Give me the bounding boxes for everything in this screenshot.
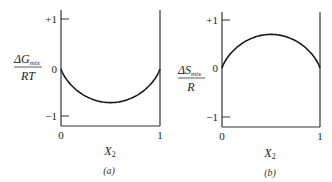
panel-a-xlabel: X2 xyxy=(103,144,115,159)
panel-a-xtick-one: 1 xyxy=(157,129,163,141)
panel-a-caption: (a) xyxy=(103,165,115,177)
panel-b-ylabel: ΔSmix R xyxy=(177,63,205,94)
panel-b-xtick-one: 1 xyxy=(317,130,323,142)
panel-a-ylabel: ΔGmix RT xyxy=(13,52,42,83)
panel-b-caption: (b) xyxy=(264,167,276,179)
panel-a-ylabel-denominator: RT xyxy=(20,69,36,83)
panel-b-ylabel-numerator: ΔSmix xyxy=(177,63,202,78)
panel-a-ylabel-numerator: ΔGmix xyxy=(13,52,41,67)
panel-b-xlabel: X2 xyxy=(263,146,275,161)
panel-b: +1 0 −1 0 1 ΔSmix R X2 (b) xyxy=(177,12,323,179)
panel-a-ytick-zero: 0 xyxy=(52,63,58,75)
panel-a-xtick-zero: 0 xyxy=(58,129,64,141)
panel-a: +1 0 −1 0 1 ΔGmix RT X2 (a) xyxy=(13,10,163,177)
panel-a-ytick-minus1: −1 xyxy=(45,110,57,122)
panel-b-curve xyxy=(222,34,320,68)
panel-b-ytick-minus1: −1 xyxy=(206,111,218,123)
panel-b-xtick-zero: 0 xyxy=(219,130,225,142)
figure: +1 0 −1 0 1 ΔGmix RT X2 (a) +1 0 −1 0 1 … xyxy=(0,0,332,182)
panel-b-ytick-plus1: +1 xyxy=(206,14,218,26)
panel-b-ylabel-denominator: R xyxy=(186,80,195,94)
panel-b-ytick-zero: 0 xyxy=(213,62,219,74)
panel-a-curve xyxy=(61,69,160,103)
panel-a-ytick-plus1: +1 xyxy=(45,13,57,25)
